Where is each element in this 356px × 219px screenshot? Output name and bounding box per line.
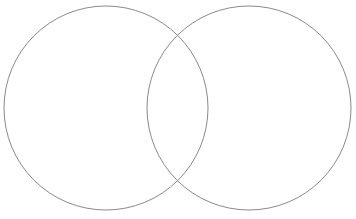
venn-diagram-svg [0, 0, 356, 219]
diagram-background [0, 0, 356, 219]
venn-diagram-canvas [0, 0, 356, 219]
